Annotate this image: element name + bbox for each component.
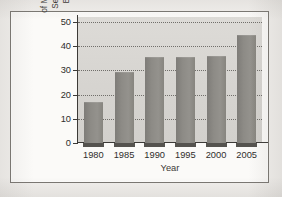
y-axis-title-line-1: Exports of Commercial bbox=[61, 0, 72, 3]
x-tick-label-1985: 1985 bbox=[114, 150, 135, 160]
y-tick-label-50: 50 bbox=[61, 17, 71, 27]
bar-1990 bbox=[145, 57, 164, 143]
figure-container: Exports of Commercial Services as a Perc… bbox=[0, 0, 282, 197]
x-tick-label-1980: 1980 bbox=[83, 150, 104, 160]
bar-2005 bbox=[237, 35, 256, 143]
bar-base-1980 bbox=[83, 143, 104, 147]
y-axis-title-line-2: Services as a Percentage bbox=[50, 0, 61, 9]
y-tick-label-0: 0 bbox=[66, 138, 71, 148]
bar-base-1995 bbox=[175, 143, 196, 147]
x-tick-label-2005: 2005 bbox=[236, 150, 257, 160]
x-tick-label-1995: 1995 bbox=[175, 150, 196, 160]
y-tick-label-20: 20 bbox=[61, 90, 71, 100]
bar-2000 bbox=[207, 56, 226, 143]
bar-base-2000 bbox=[206, 143, 227, 147]
bar-base-1985 bbox=[114, 143, 135, 147]
y-tick-0 bbox=[73, 143, 78, 144]
bar-1995 bbox=[176, 57, 195, 143]
bar-base-2005 bbox=[236, 143, 257, 147]
y-tick-label-10: 10 bbox=[61, 114, 71, 124]
plot-area: 01020304050 198019851990199520002005 bbox=[78, 17, 262, 143]
bar-series bbox=[78, 17, 262, 143]
y-tick-label-30: 30 bbox=[61, 65, 71, 75]
bar-base-1990 bbox=[144, 143, 165, 147]
y-tick-label-40: 40 bbox=[61, 41, 71, 51]
bar-1985 bbox=[115, 72, 134, 143]
x-tick-label-1990: 1990 bbox=[144, 150, 165, 160]
bar-1980 bbox=[84, 102, 103, 143]
x-axis-title: Year bbox=[78, 163, 262, 173]
x-tick-label-2000: 2000 bbox=[206, 150, 227, 160]
